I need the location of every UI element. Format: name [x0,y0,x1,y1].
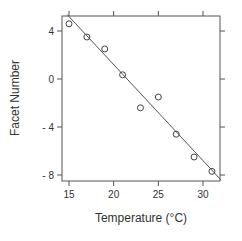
y-tick-label: 0 [48,74,54,85]
x-tick-label: 30 [197,189,209,200]
x-axis-title: Temperature (°C) [95,211,187,225]
y-tick-label: - 4 [42,122,54,133]
x-tick-label: 15 [63,189,75,200]
data-point [66,21,72,27]
y-axis-title: Facet Number [8,60,22,136]
x-tick-label: 20 [108,189,120,200]
data-points [66,21,215,175]
y-axis-ticks: 40- 4- 8 [42,26,225,181]
plot-frame [62,16,220,181]
data-point [191,154,197,160]
data-point [155,94,161,100]
regression-line [67,15,221,180]
data-point [137,105,143,111]
scatter-chart: 15202530 40- 4- 8 Temperature (°C) Facet… [0,0,242,241]
y-tick-label: 4 [48,26,54,37]
data-point [84,34,90,40]
data-point [209,168,215,174]
data-point [102,46,108,52]
y-tick-label: - 8 [42,170,54,181]
x-tick-label: 25 [153,189,165,200]
